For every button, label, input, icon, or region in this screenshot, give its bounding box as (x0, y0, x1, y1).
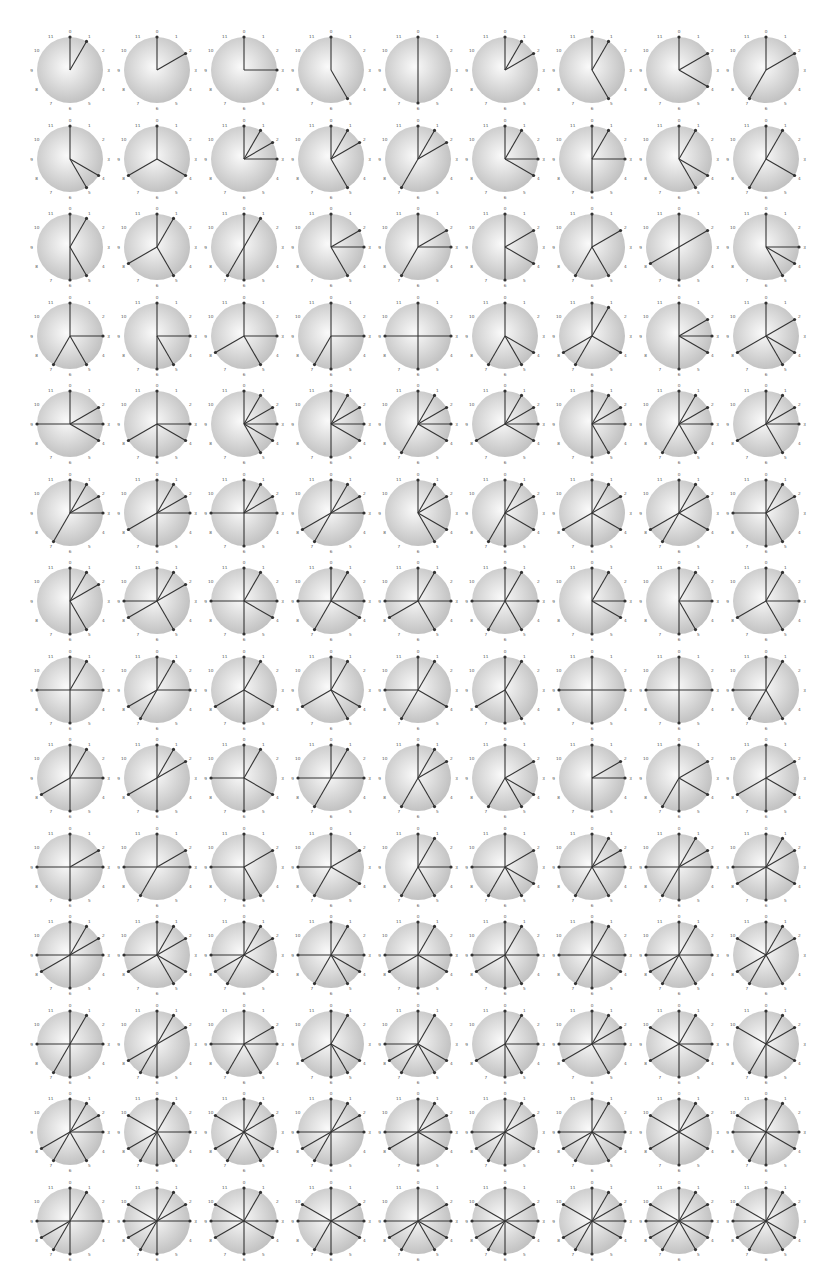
pitch-class-label: 6 (591, 195, 594, 200)
pitch-class-label: 0 (678, 826, 681, 831)
spoke-endpoint-marker (155, 544, 158, 547)
pitch-class-label: 10 (382, 491, 388, 496)
pitch-class-label: 1 (784, 831, 787, 836)
pitch-class-label: 5 (610, 1163, 613, 1168)
spoke-endpoint-marker (781, 539, 784, 542)
pitch-class-label: 3 (455, 776, 458, 781)
spoke-endpoint-marker (214, 704, 217, 707)
pitch-class-label: 9 (291, 687, 294, 692)
pitch-class-label: 2 (537, 756, 540, 761)
pitch-class-label: 9 (30, 68, 33, 73)
pitch-class-label: 0 (417, 560, 420, 565)
pitch-class-label: 9 (378, 1218, 381, 1223)
pitch-class-label: 0 (243, 1180, 246, 1185)
pitch-class-label: 2 (189, 1110, 192, 1115)
spoke-endpoint-marker (764, 1009, 767, 1012)
pitch-class-label: 6 (330, 726, 333, 731)
pitch-class-label: 7 (49, 101, 52, 106)
spoke-endpoint-marker (619, 616, 622, 619)
spoke-endpoint-marker (520, 716, 523, 719)
pitch-class-label: 0 (504, 649, 507, 654)
pitch-class-label: 11 (309, 654, 315, 659)
spoke-endpoint-marker (736, 350, 739, 353)
pitch-class-label: 7 (136, 1074, 139, 1079)
pitch-class-label: 1 (697, 211, 700, 216)
pitch-class-label: 7 (136, 189, 139, 194)
spoke-endpoint-marker (346, 97, 349, 100)
pitch-class-label: 7 (49, 986, 52, 991)
spoke-endpoint-marker (706, 760, 709, 763)
spoke-endpoint-marker (242, 544, 245, 547)
pitch-class-label: 11 (135, 831, 141, 836)
spoke-endpoint-marker (532, 527, 535, 530)
pitch-class-label: 3 (803, 510, 806, 515)
pitch-class-label: 7 (745, 986, 748, 991)
pitch-class-label: 6 (69, 814, 72, 819)
pitch-class-label: 7 (571, 543, 574, 548)
pitch-class-label: 1 (523, 123, 526, 128)
spoke-endpoint-marker (313, 1247, 316, 1250)
pitch-class-label: 9 (726, 156, 729, 161)
spoke-endpoint-marker (557, 865, 560, 868)
pitch-class-label: 3 (542, 333, 545, 338)
pitch-class-label: 3 (107, 510, 110, 515)
spoke-endpoint-marker (520, 362, 523, 365)
pitch-class-label: 9 (552, 68, 555, 73)
spoke-endpoint-marker (557, 1130, 560, 1133)
pitch-class-label: 0 (69, 472, 72, 477)
pitch-class-label: 4 (450, 618, 453, 623)
pitch-class-label: 8 (122, 264, 125, 269)
pitch-class-label: 5 (88, 897, 91, 902)
spoke-endpoint-marker (532, 760, 535, 763)
pitch-class-label: 5 (610, 543, 613, 548)
pitch-class-label: 1 (175, 211, 178, 216)
pitch-class-label: 2 (798, 1110, 801, 1115)
pitch-class-label: 0 (678, 472, 681, 477)
pitch-class-label: 4 (624, 264, 627, 269)
pitch-class-label: 3 (281, 1218, 284, 1223)
pitch-class-label: 1 (523, 565, 526, 570)
pitch-class-label: 4 (102, 883, 105, 888)
pitch-class-label: 0 (156, 1180, 159, 1185)
pitch-class-label: 10 (730, 48, 736, 53)
pitch-class-label: 4 (189, 352, 192, 357)
pitch-class-label: 5 (349, 897, 352, 902)
spoke-endpoint-marker (649, 262, 652, 265)
pitch-class-label: 11 (135, 654, 141, 659)
pitch-class-label: 9 (204, 1041, 207, 1046)
pitch-class-label: 11 (657, 565, 663, 570)
pitch-class-label: 8 (557, 529, 560, 534)
pitch-class-label: 3 (542, 687, 545, 692)
spoke-endpoint-marker (445, 140, 448, 143)
pitch-class-label: 2 (363, 491, 366, 496)
spoke-endpoint-marker (748, 1159, 751, 1162)
pitch-class-label: 9 (291, 1218, 294, 1223)
pitch-class-label: 3 (716, 68, 719, 73)
pitch-class-label: 4 (189, 264, 192, 269)
spoke-endpoint-marker (301, 1202, 304, 1205)
spoke-endpoint-marker (97, 406, 100, 409)
pitch-class-clock: 01234567891011 (463, 825, 547, 909)
spoke-endpoint-marker (346, 482, 349, 485)
pitch-class-clock: 01234567891011 (637, 1002, 721, 1086)
spoke-endpoint-marker (764, 1186, 767, 1189)
spoke-endpoint-marker (781, 1013, 784, 1016)
pitch-class-label: 6 (69, 726, 72, 731)
pitch-class-label: 5 (262, 366, 265, 371)
spoke-endpoint-marker (731, 1219, 734, 1222)
pitch-class-label: 5 (175, 543, 178, 548)
pitch-class-label: 7 (49, 543, 52, 548)
pitch-class-label: 8 (296, 1237, 299, 1242)
pitch-class-label: 10 (34, 1110, 40, 1115)
pitch-class-label: 2 (711, 225, 714, 230)
spoke-endpoint-marker (329, 1097, 332, 1100)
pitch-class-label: 2 (450, 668, 453, 673)
pitch-class-label: 1 (610, 1008, 613, 1013)
pitch-class-label: 9 (465, 599, 468, 604)
pitch-class-label: 10 (208, 668, 214, 673)
pitch-class-clock: 01234567891011 (724, 736, 808, 820)
spoke-endpoint-marker (172, 274, 175, 277)
pitch-class-label: 2 (276, 1110, 279, 1115)
spoke-endpoint-marker (536, 599, 539, 602)
pitch-class-clock: 01234567891011 (376, 382, 460, 466)
